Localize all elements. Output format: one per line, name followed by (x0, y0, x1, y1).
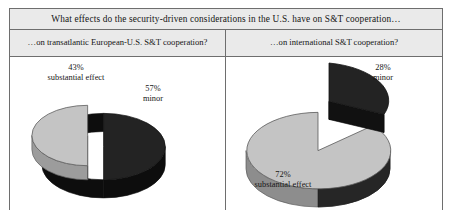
chart-row: 43% substantial effect 57% minor (10, 57, 442, 210)
pie-label-minor-left: 57% minor (118, 84, 188, 105)
pie-chart-transatlantic: 43% substantial effect 57% minor (10, 57, 226, 210)
results-table: What effects do the security-driven cons… (9, 8, 443, 210)
pie-slice-substantial-43 (32, 105, 88, 179)
column-header-transatlantic: …on transatlantic European-U.S. S&T coop… (10, 30, 226, 56)
pie-label-minor-left-cat: minor (118, 94, 188, 104)
column-header-international: …on international S&T cooperation? (226, 30, 442, 56)
pie-label-substantial-right: 72% substantial effect (224, 170, 342, 191)
pie-label-substantial-right-cat: substantial effect (224, 180, 342, 190)
screenshot-root: What effects do the security-driven cons… (0, 0, 453, 222)
pie-label-substantial-left-cat: substantial effect (18, 73, 134, 83)
table-title-row: What effects do the security-driven cons… (10, 9, 442, 30)
pie-label-substantial-left-pct: 43% (18, 63, 134, 73)
pie-label-minor-right-pct: 28% (348, 63, 418, 73)
pie-label-minor-left-pct: 57% (118, 84, 188, 94)
pie-label-substantial-left: 43% substantial effect (18, 63, 134, 84)
pie-label-minor-right-cat: minor (348, 73, 418, 83)
pie-label-minor-right: 28% minor (348, 63, 418, 84)
pie-chart-international: 28% minor 72% substantial effect (226, 57, 442, 210)
column-header-international-label: …on international S&T cooperation? (270, 37, 398, 48)
pie-label-substantial-right-pct: 72% (224, 170, 342, 180)
column-header-transatlantic-label: …on transatlantic European-U.S. S&T coop… (28, 37, 208, 48)
table-title: What effects do the security-driven cons… (51, 14, 400, 24)
table-header-row: …on transatlantic European-U.S. S&T coop… (10, 30, 442, 57)
